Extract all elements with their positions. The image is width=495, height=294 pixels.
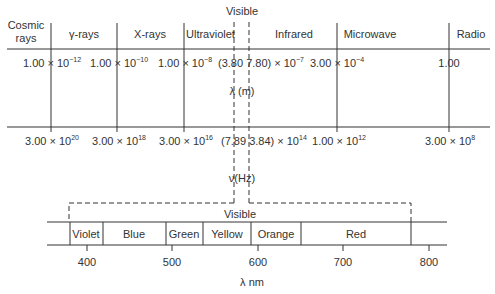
frequency-tick-0: 3.00 × 1020 (25, 135, 79, 147)
wavelength-axis-label: λ (m) (229, 85, 254, 97)
band-red: Red (346, 228, 366, 240)
frequency-tick-2: 3.00 × 1016 (159, 135, 213, 147)
wavelength-tick-visible: (3.80 7.80) × 10−7 (218, 57, 304, 69)
wavelength-tick-5: 1.00 (438, 57, 459, 69)
visible-header: Visible (226, 5, 258, 17)
frequency-axis-label: ν(Hz) (229, 172, 255, 184)
region-radio: Radio (457, 28, 486, 40)
nm-tick-800: 800 (420, 256, 438, 268)
nm-tick-500: 500 (163, 256, 181, 268)
region-infrared: Infrared (275, 28, 313, 40)
region-cosmic-line1: Cosmic (8, 19, 45, 32)
band-yellow: Yellow (211, 228, 242, 240)
spectrum-diagram-lines (0, 0, 495, 294)
nm-tick-700: 700 (334, 256, 352, 268)
region-x-rays: X-rays (134, 28, 166, 40)
frequency-tick-visible: (7.89 3.84) × 1014 (221, 135, 307, 147)
band-orange: Orange (258, 228, 295, 240)
wavelength-tick-1: 1.00 × 10−10 (90, 57, 148, 69)
nm-tick-600: 600 (249, 256, 267, 268)
nm-tick-400: 400 (78, 256, 96, 268)
visible-band-title: Visible (224, 208, 256, 220)
region-microwave: Microwave (344, 28, 397, 40)
frequency-tick-5: 3.00 × 108 (425, 135, 475, 147)
nm-axis-label: λ nm (240, 276, 264, 288)
wavelength-tick-0: 1.00 × 10−12 (23, 57, 81, 69)
frequency-tick-4: 1.00 × 1012 (312, 135, 366, 147)
region-cosmic-rays: Cosmic rays (8, 19, 45, 45)
band-violet: Violet (72, 228, 99, 240)
band-green: Green (169, 228, 200, 240)
region-cosmic-line2: rays (8, 32, 45, 45)
band-blue: Blue (123, 228, 145, 240)
region-gamma-rays: γ-rays (69, 28, 99, 40)
frequency-tick-1: 3.00 × 1018 (92, 135, 146, 147)
wavelength-tick-4: 3.00 × 10−4 (310, 57, 364, 69)
wavelength-tick-2: 1.00 × 10−8 (158, 57, 212, 69)
region-ultraviolet: Ultraviolet (186, 28, 235, 40)
